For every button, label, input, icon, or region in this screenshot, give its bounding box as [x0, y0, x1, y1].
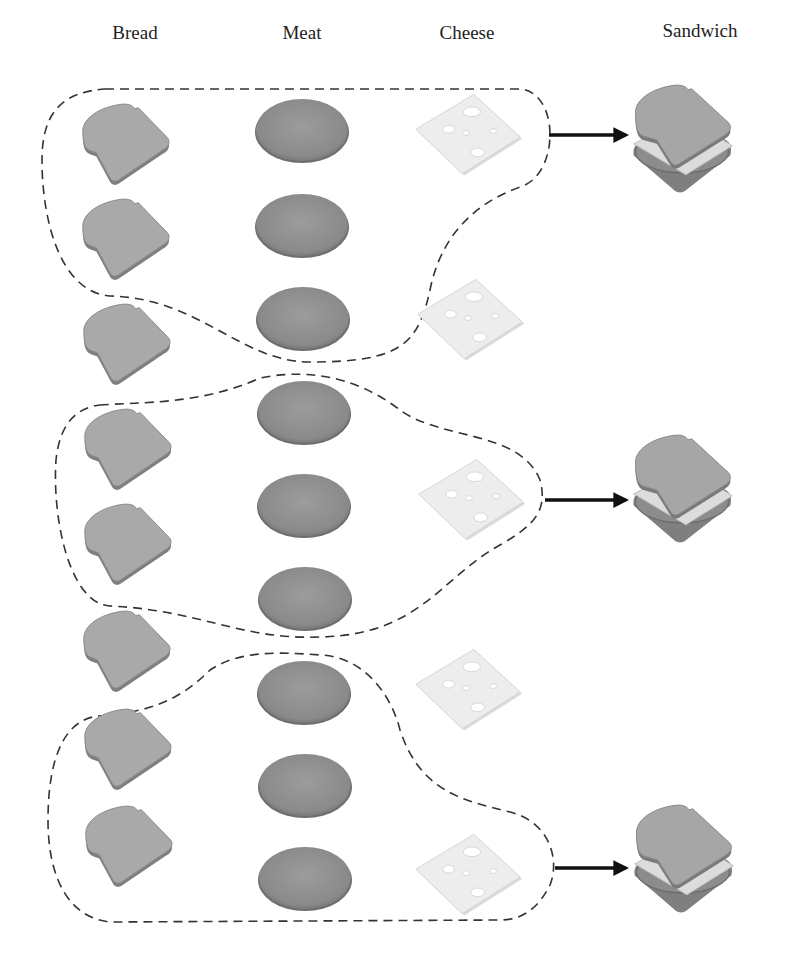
meat-patty-icon — [258, 754, 352, 818]
sandwich-icon — [633, 435, 732, 542]
bread-slice-icon — [83, 104, 169, 185]
bread-slice-icon — [85, 709, 171, 790]
meat-patty-icon — [257, 661, 351, 725]
cheese-slice-icon — [416, 834, 522, 915]
cheese-slice-icon — [419, 459, 525, 540]
meat-patty-icon — [258, 847, 352, 911]
bread-slice-icon — [83, 199, 169, 280]
sandwich-icon — [633, 85, 732, 192]
cheese-column — [416, 94, 525, 915]
bread-slice-icon — [86, 806, 172, 887]
meat-patty-icon — [258, 567, 352, 631]
meat-patty-icon — [257, 474, 351, 538]
meat-patty-icon — [255, 99, 349, 163]
sandwich-diagram — [0, 0, 799, 978]
meat-patty-icon — [255, 194, 349, 258]
bread-column — [83, 104, 172, 887]
bread-slice-icon — [85, 504, 171, 585]
meat-column — [255, 99, 352, 911]
bread-slice-icon — [84, 304, 170, 385]
meat-patty-icon — [256, 287, 350, 351]
meat-patty-icon — [257, 381, 351, 445]
cheese-slice-icon — [418, 279, 524, 360]
sandwich-outputs — [545, 85, 733, 912]
sandwich-icon — [634, 805, 733, 912]
cheese-slice-icon — [416, 94, 522, 175]
bread-slice-icon — [84, 611, 170, 692]
bread-slice-icon — [85, 409, 171, 490]
cheese-slice-icon — [416, 649, 522, 730]
